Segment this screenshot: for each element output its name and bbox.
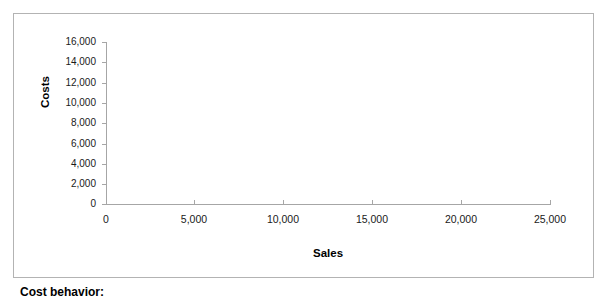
y-axis-tick-label-wrap: 14,000 (44, 57, 96, 67)
y-axis-tick (102, 184, 106, 185)
plot-area (106, 42, 550, 204)
y-axis-tick-label: 8,000 (44, 118, 96, 128)
y-axis-tick-label-wrap: 4,000 (44, 159, 96, 169)
y-axis-tick (102, 83, 106, 84)
y-axis-tick-label: 4,000 (44, 159, 96, 169)
x-axis-tick-label: 20,000 (426, 213, 496, 225)
y-axis-tick (102, 42, 106, 43)
y-axis-tick-label: 6,000 (44, 139, 96, 149)
y-axis-tick-label-wrap: 12,000 (44, 78, 96, 88)
y-axis-tick (102, 62, 106, 63)
y-axis-tick-label: 12,000 (44, 78, 96, 88)
y-axis-title: Costs (39, 57, 51, 127)
x-axis-tick (194, 200, 195, 205)
x-axis-tick-label: 15,000 (337, 213, 407, 225)
y-axis-tick-label: 2,000 (44, 179, 96, 189)
y-axis-tick-label-wrap: 0 (44, 199, 96, 209)
x-axis-tick-label: 10,000 (248, 213, 318, 225)
y-axis-tick-label-wrap: 8,000 (44, 118, 96, 128)
x-axis-tick-label: 25,000 (515, 213, 585, 225)
x-axis-tick-label: 5,000 (159, 213, 229, 225)
chart-container: 16,000 14,000 12,000 10,000 8,000 6,000 … (13, 13, 594, 278)
y-axis-line (106, 42, 107, 205)
y-axis-tick-label-wrap: 10,000 (44, 98, 96, 108)
cost-behavior-caption: Cost behavior: (20, 285, 104, 299)
x-axis-tick (550, 200, 551, 205)
y-axis-tick (102, 103, 106, 104)
y-axis-tick-label: 0 (44, 199, 96, 209)
y-axis-tick-label-wrap: 2,000 (44, 179, 96, 189)
y-axis-tick-label-wrap: 6,000 (44, 139, 96, 149)
x-axis-tick (372, 200, 373, 205)
y-axis-tick-label: 10,000 (44, 98, 96, 108)
y-axis-tick (102, 144, 106, 145)
y-axis-tick (102, 123, 106, 124)
x-axis-tick (283, 200, 284, 205)
y-axis-tick-label: 14,000 (44, 57, 96, 67)
y-axis-tick-label: 16,000 (44, 37, 96, 47)
y-axis-tick-label-wrap: 16,000 (44, 37, 96, 47)
x-axis-line (106, 204, 551, 205)
x-axis-title: Sales (106, 247, 550, 259)
x-axis-tick-label: 0 (71, 213, 141, 225)
y-axis-tick (102, 164, 106, 165)
x-axis-tick (106, 200, 107, 205)
x-axis-tick (461, 200, 462, 205)
